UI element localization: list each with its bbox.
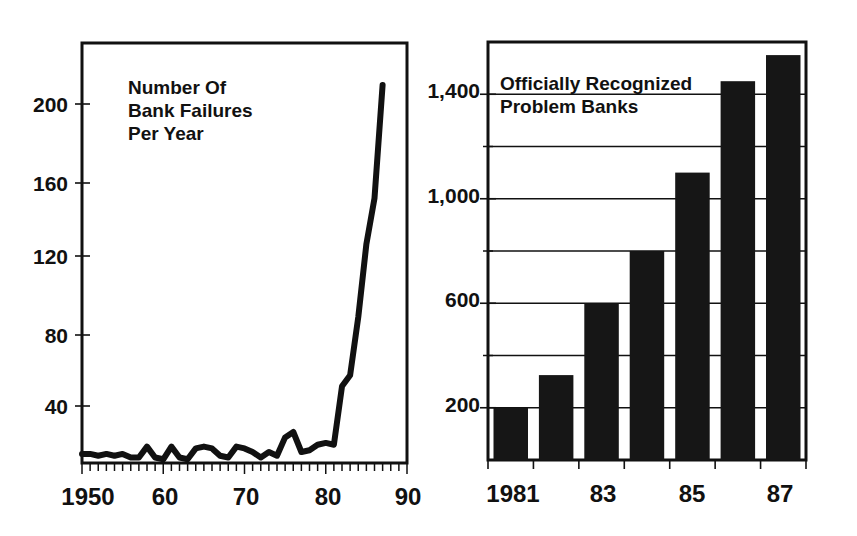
y-tick-label-200: 200 [445,393,480,416]
chart-title-line-1: Officially Recognized [500,73,692,94]
chart-title-line-3: Per Year [128,123,204,144]
x-tick-label-90: 90 [395,483,422,510]
chart-title-line-2: Bank Failures [128,100,253,121]
line-chart-svg: 200 160 120 80 40 Number Of Bank Failure… [0,0,440,536]
x-tick-label-1981: 1981 [486,480,539,507]
y-tick-label-80: 80 [45,324,68,347]
x-axis-labels: 1950 60 70 80 90 [61,483,421,510]
figure-page: 200 160 120 80 40 Number Of Bank Failure… [0,0,857,536]
y-tick-label-1400: 1,400 [427,79,480,102]
bar-1984 [630,251,665,460]
x-axis-minor-ticks [82,463,407,474]
y-tick-label-40: 40 [45,395,68,418]
chart-title: Officially Recognized Problem Banks [500,73,692,117]
x-tick-label-70: 70 [233,483,260,510]
x-tick-label-83: 83 [590,480,617,507]
bar-1986 [721,81,756,460]
y-axis-labels: 200 160 120 80 40 [33,93,68,418]
bar-1981 [494,408,529,460]
y-tick-label-1000: 1,000 [427,184,480,207]
y-tick-label-200: 200 [33,93,68,116]
x-tick-label-1950: 1950 [61,483,114,510]
x-tick-label-85: 85 [679,480,706,507]
x-axis-labels: 1981 83 85 87 [486,480,793,507]
bar-chart-problem-banks: 1,400 1,000 600 200 Officially Recognize… [420,0,857,536]
bar-1987 [766,55,801,460]
bar-1983 [584,303,619,460]
y-tick-label-600: 600 [445,288,480,311]
chart-title-line-1: Number Of [128,77,227,98]
x-tick-label-60: 60 [152,483,179,510]
line-chart-bank-failures: 200 160 120 80 40 Number Of Bank Failure… [0,0,440,536]
x-tick-label-87: 87 [767,480,794,507]
bar-1985 [675,173,710,460]
bar-chart-svg: 1,400 1,000 600 200 Officially Recognize… [420,0,857,536]
chart-title: Number Of Bank Failures Per Year [128,77,253,144]
chart-title-line-2: Problem Banks [500,96,638,117]
bar-1982 [539,375,574,460]
y-tick-label-160: 160 [33,172,68,195]
y-axis-labels: 1,400 1,000 600 200 [427,79,480,416]
y-tick-label-120: 120 [33,245,68,268]
x-tick-label-80: 80 [315,483,342,510]
